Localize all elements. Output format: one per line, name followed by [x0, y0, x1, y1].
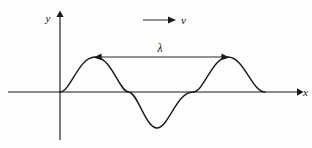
velocity-marker: v — [143, 14, 186, 26]
y-axis-arrowhead-icon — [56, 11, 63, 18]
wavelength-right-arrowhead-icon — [221, 53, 229, 60]
x-axis-label: x — [302, 86, 308, 98]
wavelength-left-arrowhead-icon — [94, 53, 102, 60]
wavelength-label: λ — [157, 42, 163, 54]
velocity-arrowhead-icon — [168, 17, 176, 24]
wavelength-marker: λ — [94, 42, 230, 60]
y-axis: y — [45, 11, 64, 141]
velocity-label: v — [181, 14, 186, 26]
y-axis-label: y — [45, 12, 51, 24]
wave-diagram-canvas: x y λ v — [0, 0, 312, 148]
wave-diagram-figure: x y λ v — [0, 0, 312, 148]
